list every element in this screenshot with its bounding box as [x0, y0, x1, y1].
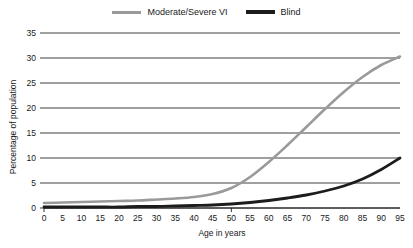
y-tick-label-5: 5: [31, 178, 36, 188]
x-tick-label-0: 0: [42, 213, 47, 223]
x-axis-tickmarks: [44, 208, 231, 212]
x-tick-label-40: 40: [189, 213, 199, 223]
gridlines: [40, 33, 400, 208]
y-tick-label-20: 20: [27, 103, 37, 113]
x-tick-label-35: 35: [170, 213, 180, 223]
x-tick-label-95: 95: [395, 213, 405, 223]
x-tick-label-50: 50: [227, 213, 237, 223]
y-tick-label-10: 10: [27, 153, 37, 163]
x-tick-label-80: 80: [339, 213, 349, 223]
x-axis-tick-labels: 05101520253035404550556065707580859095: [42, 213, 405, 223]
line-chart-figure: Moderate/Severe VI Blind Percentage of p…: [0, 0, 413, 248]
x-tick-label-65: 65: [283, 213, 293, 223]
x-tick-label-25: 25: [133, 213, 143, 223]
x-tick-label-30: 30: [152, 213, 162, 223]
x-tick-label-85: 85: [358, 213, 368, 223]
x-tick-label-55: 55: [245, 213, 255, 223]
y-tick-label-30: 30: [27, 53, 37, 63]
y-axis-tick-labels: 05101520253035: [27, 28, 37, 213]
x-tick-label-90: 90: [377, 213, 387, 223]
y-tick-label-25: 25: [27, 78, 37, 88]
x-tick-label-5: 5: [60, 213, 65, 223]
y-tick-label-35: 35: [27, 28, 37, 38]
x-tick-label-45: 45: [208, 213, 218, 223]
x-tick-label-60: 60: [264, 213, 274, 223]
x-tick-label-10: 10: [77, 213, 87, 223]
x-tick-label-20: 20: [114, 213, 124, 223]
x-tick-label-70: 70: [302, 213, 312, 223]
y-tick-label-15: 15: [27, 128, 37, 138]
series-line-moderate-severe-vi: [44, 57, 400, 204]
series-line-blind: [44, 158, 400, 207]
x-tick-label-15: 15: [95, 213, 105, 223]
x-tick-label-75: 75: [320, 213, 330, 223]
y-tick-label-0: 0: [31, 203, 36, 213]
plot-area: 05101520253035 0510152025303540455055606…: [0, 0, 413, 248]
